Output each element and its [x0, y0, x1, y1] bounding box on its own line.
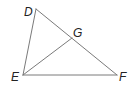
segment-eg — [23, 38, 72, 75]
vertex-label-f: F — [119, 70, 127, 84]
vertex-label-d: D — [24, 5, 33, 19]
segment-df — [36, 9, 117, 75]
triangle-diagram: D G E F — [0, 0, 138, 86]
vertex-label-g: G — [73, 26, 82, 40]
vertex-label-e: E — [11, 70, 20, 84]
